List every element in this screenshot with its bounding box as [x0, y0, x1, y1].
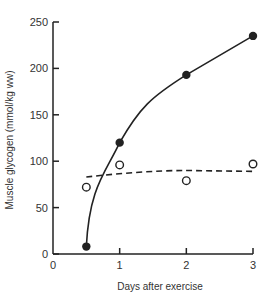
open-circle-marker	[83, 183, 91, 191]
y-tick-label: 0	[42, 248, 48, 260]
solid-fit-curve	[86, 36, 253, 247]
filled-circle-marker	[249, 32, 257, 40]
y-tick-label: 200	[30, 62, 48, 74]
y-tick-label: 150	[30, 109, 48, 121]
glycogen-chart: 0501001502002500123 Days after exercise …	[0, 0, 267, 297]
x-tick-label: 0	[50, 259, 56, 271]
x-tick-label: 3	[250, 259, 256, 271]
x-tick-label: 2	[183, 259, 189, 271]
open-circle-marker	[249, 160, 257, 168]
filled-circle-marker	[82, 242, 90, 250]
y-tick-label: 100	[30, 155, 48, 167]
axes	[53, 22, 253, 254]
open-circle-marker	[183, 177, 191, 185]
open-circle-marker	[116, 161, 124, 169]
y-tick-label: 50	[36, 202, 48, 214]
y-tick-label: 250	[30, 16, 48, 28]
x-axis-label: Days after exercise	[117, 281, 203, 292]
data-series	[82, 32, 257, 251]
dashed-fit-line	[86, 170, 253, 176]
filled-circle-marker	[115, 138, 123, 146]
filled-circle-marker	[182, 71, 190, 79]
x-tick-label: 1	[117, 259, 123, 271]
y-axis-label: Muscle glycogen (mmol/kg ww)	[4, 71, 15, 210]
